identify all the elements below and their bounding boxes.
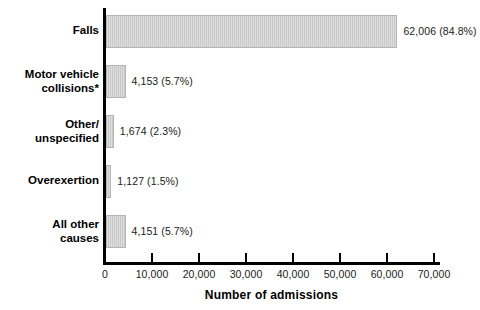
category-label: Other/ unspecified <box>0 118 99 145</box>
chart-row: Motor vehicle collisions* 4,153 (5.7%) <box>0 56 480 106</box>
x-axis-tick-label: 40,000 <box>277 268 310 280</box>
x-axis-tick-label: 50,000 <box>324 268 357 280</box>
bar-other-unspecified <box>106 115 114 148</box>
x-axis-tick <box>151 253 153 262</box>
bar-value-label: 62,006 (84.8%) <box>403 25 476 37</box>
category-label: Motor vehicle collisions* <box>0 68 99 95</box>
bar-falls <box>106 15 397 48</box>
x-axis-tick-label: 70,000 <box>418 268 451 280</box>
category-label: All other causes <box>0 218 99 245</box>
x-axis-tick-label: 20,000 <box>183 268 216 280</box>
x-axis-tick-label: 60,000 <box>371 268 404 280</box>
x-axis-line <box>103 262 440 265</box>
y-axis-line <box>103 8 106 264</box>
bar-all-other-causes <box>106 215 126 248</box>
x-axis-tick <box>292 253 294 262</box>
bar-value-label: 1,674 (2.3%) <box>120 125 181 137</box>
bar-value-label: 4,153 (5.7%) <box>132 75 193 87</box>
bar-value-label: 4,151 (5.7%) <box>132 225 193 237</box>
x-axis-title: Number of admissions <box>103 288 440 302</box>
bar-chart: Falls 62,006 (84.8%) Motor vehicle colli… <box>0 0 480 310</box>
x-axis-tick <box>198 253 200 262</box>
bar-value-label: 1,127 (1.5%) <box>117 175 178 187</box>
x-axis-tick-label: 0 <box>102 268 108 280</box>
chart-row: Falls 62,006 (84.8%) <box>0 6 480 56</box>
x-axis-tick <box>433 253 435 262</box>
x-axis-tick <box>386 253 388 262</box>
category-label: Falls <box>0 24 99 38</box>
chart-row: All other causes 4,151 (5.7%) <box>0 206 480 256</box>
x-axis-tick-label: 30,000 <box>230 268 263 280</box>
x-axis-tick <box>245 253 247 262</box>
chart-row: Overexertion 1,127 (1.5%) <box>0 156 480 206</box>
x-axis-tick <box>339 253 341 262</box>
bar-motor-vehicle-collisions <box>106 65 126 98</box>
category-label: Overexertion <box>0 174 99 188</box>
x-axis-tick-label: 10,000 <box>136 268 169 280</box>
chart-row: Other/ unspecified 1,674 (2.3%) <box>0 106 480 156</box>
bar-overexertion <box>106 165 111 198</box>
